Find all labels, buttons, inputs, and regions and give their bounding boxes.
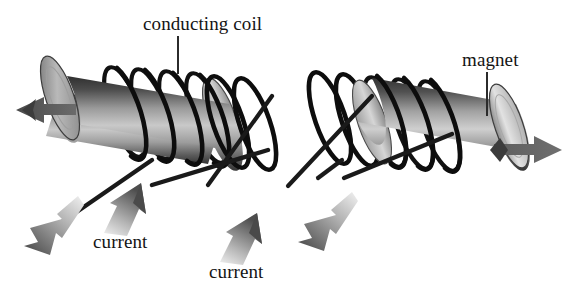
label-magnet: magnet (462, 50, 519, 69)
label-current-right: current (209, 262, 264, 281)
right-current-arrow-down (298, 192, 358, 251)
right-current-arrow-up (220, 213, 262, 265)
induction-diagram (0, 0, 577, 294)
label-conducting-coil: conducting coil (143, 14, 262, 33)
figure-canvas: conducting coil magnet current current (0, 0, 577, 294)
left-current-arrow-down (24, 196, 84, 255)
right-lead-wire-c (318, 160, 342, 178)
label-current-left: current (93, 232, 148, 251)
